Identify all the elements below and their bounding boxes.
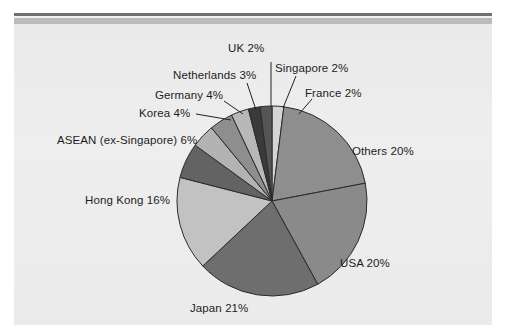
leader-line-singapore (283, 76, 296, 108)
page-root: UK 2% Singapore 2% Netherlands 3% France… (0, 0, 506, 336)
label-germany: Germany 4% (155, 90, 223, 102)
label-singapore: Singapore 2% (275, 63, 348, 75)
label-usa: USA 20% (340, 258, 390, 270)
label-uk: UK 2% (228, 43, 264, 55)
label-asean: ASEAN (ex-Singapore) 6% (57, 135, 197, 147)
label-netherlands: Netherlands 3% (173, 70, 256, 82)
pie-slice-group (177, 106, 367, 296)
label-france: France 2% (305, 88, 362, 100)
leader-line-germany (224, 101, 243, 114)
label-hongkong: Hong Kong 16% (85, 195, 170, 207)
leader-line-netherlands (247, 83, 256, 110)
label-japan: Japan 21% (190, 303, 248, 315)
leader-line-korea (196, 114, 231, 120)
label-others: Others 20% (352, 146, 414, 158)
label-korea: Korea 4% (139, 108, 190, 120)
